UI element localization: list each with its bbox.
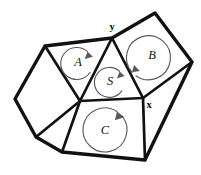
region-label-a: A [73,55,82,69]
vertex-label-y: y [109,21,115,32]
face-group [15,13,192,160]
polygon-dissection-figure: A S B C y x [0,0,201,175]
vertex-label-x: x [146,99,152,110]
dissection-diagram-svg: A S B C y x [0,0,201,175]
region-label-s: S [107,74,114,88]
region-label-b: B [148,48,156,62]
region-label-c: C [101,123,110,137]
